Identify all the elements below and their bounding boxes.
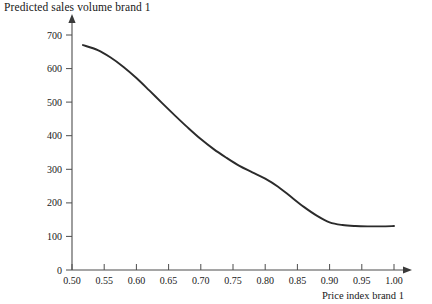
y-tick-label: 300 xyxy=(47,164,62,175)
x-axis-arrow-icon xyxy=(403,266,412,273)
y-tick-group: 0 100 200 300 400 500 600 700 xyxy=(47,30,72,276)
x-tick-label: 0.60 xyxy=(128,275,146,286)
x-tick-label: 0.65 xyxy=(160,275,178,286)
x-tick-label: 0.75 xyxy=(224,275,242,286)
y-tick-label: 500 xyxy=(47,97,62,108)
x-tick-label: 0.80 xyxy=(256,275,274,286)
y-tick-label: 0 xyxy=(57,265,62,276)
y-tick-label: 400 xyxy=(47,130,62,141)
x-tick-label: 0.70 xyxy=(192,275,210,286)
y-axis-arrow-icon xyxy=(68,14,75,23)
y-tick-label: 700 xyxy=(47,30,62,41)
x-tick-label: 0.50 xyxy=(63,275,81,286)
y-tick-label: 100 xyxy=(47,231,62,242)
y-tick-label: 200 xyxy=(47,197,62,208)
y-tick-label: 600 xyxy=(47,63,62,74)
x-tick-label: 0.90 xyxy=(321,275,339,286)
x-tick-label: 0.55 xyxy=(95,275,113,286)
x-tick-label: 1.00 xyxy=(385,275,403,286)
chart-figure: Predicted sales volume brand 1 0 100 200… xyxy=(0,0,432,304)
plot-area: 0 100 200 300 400 500 600 700 0.50 0.55 … xyxy=(0,0,432,304)
x-axis-title: Price index brand 1 xyxy=(322,290,404,301)
x-tick-group: 0.50 0.55 0.60 0.65 0.70 0.75 0.80 0.85 … xyxy=(63,264,403,286)
x-tick-label: 0.85 xyxy=(289,275,307,286)
sales-volume-curve xyxy=(83,45,394,226)
x-tick-label: 0.95 xyxy=(353,275,371,286)
